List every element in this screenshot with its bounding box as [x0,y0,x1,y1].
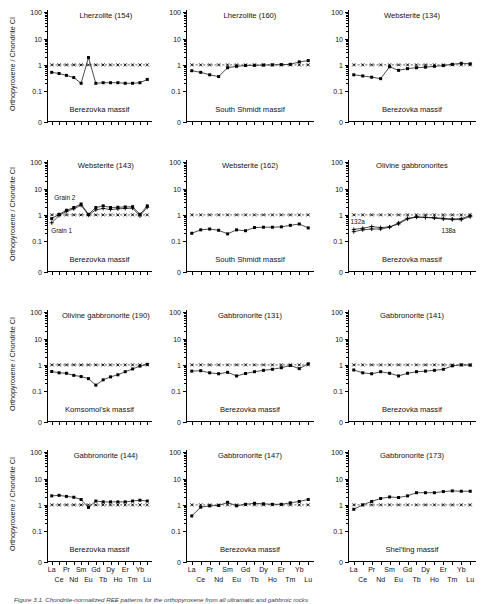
y-tick-label: 0 [38,269,42,276]
data-point [424,370,427,373]
chart-row: Orthopyroxene / Chondrite CI1001010.10Ol… [0,300,498,440]
x-tick [192,272,193,276]
data-point [199,71,202,74]
data-point [50,370,53,373]
y-tick-label: 10 [173,335,181,342]
x-tick [133,122,134,126]
y-axis-title-text: Orthopyroxene / Chondrite CI [8,17,17,111]
x-tick [272,562,273,566]
data-point [388,225,392,229]
y-tick-label: 1 [38,61,42,68]
x-tick [416,122,417,126]
data-point [50,71,53,74]
x-tick [219,562,220,566]
plot-area-p2: 1001010.10Lherzolite (160)South Shmidt m… [186,10,314,122]
data-point [58,72,61,75]
data-point [208,73,211,76]
y-tick [183,272,187,273]
series-annotation: Grain 1 [51,227,72,234]
data-point [406,494,409,497]
marker-layer-p10 [47,450,152,562]
x-tick [147,122,148,126]
x-tick [125,422,126,426]
x-tick-label-bottom: Ho [113,576,122,584]
data-point [370,227,374,231]
x-tick [443,122,444,126]
x-tick [125,122,126,126]
x-tick [263,562,264,566]
x-tick-label-top: Dy [259,566,268,574]
x-tick [470,562,471,566]
x-tick-label-bottom: Ho [430,576,439,584]
data-point [58,494,61,497]
x-tick [452,562,453,566]
x-tick [290,122,291,126]
data-point [397,374,400,377]
y-tick-label: 1 [339,61,343,68]
x-tick [363,562,364,566]
data-point [415,370,418,373]
data-point [298,500,301,503]
x-tick [381,122,382,126]
x-tick-label-top: Er [278,566,285,574]
marker-layer-p6 [348,160,476,272]
data-point [217,229,220,232]
data-point [370,500,373,503]
y-tick-label: 10 [335,335,343,342]
x-tick [59,272,60,276]
plot-area-p5: 1001010.10Websterite (162)South Shmidt m… [186,160,314,272]
y-tick-label: 10 [173,475,181,482]
y-tick-label: 100 [30,449,42,456]
reference-marker [146,503,149,506]
data-point [116,81,119,84]
x-tick-label-bottom: Ce [55,576,64,584]
x-tick [363,272,364,276]
x-tick [299,562,300,566]
x-tick [408,272,409,276]
x-tick [201,422,202,426]
x-tick [125,562,126,566]
y-tick-label: 0 [339,419,343,426]
plot-area-p6: 1001010.10Olivine gabbronoritesBerezovka… [348,160,476,272]
x-tick [299,422,300,426]
marker-layer-p12 [348,450,476,562]
x-tick [308,562,309,566]
x-tick [111,562,112,566]
x-tick [263,272,264,276]
data-point [94,384,97,387]
x-tick-label-top: Pr [63,566,70,574]
y-tick-label: 0 [38,119,42,126]
chart-panel-p4: Orthopyroxene / Chondrite CI1001010.10We… [2,150,160,300]
x-tick [408,422,409,426]
x-tick-label-bottom: Nd [214,576,223,584]
chart-panel-p9: 1001010.10Gabbronorite (141)Berezovka ma… [326,300,484,440]
x-tick [272,122,273,126]
y-tick-label: 0.1 [32,88,42,95]
y-tick-label: 100 [169,9,181,16]
data-point [109,81,112,84]
x-tick [290,562,291,566]
data-point [131,500,134,503]
y-tick [345,272,349,273]
series-annotation: 138a [441,227,455,234]
x-tick [66,562,67,566]
x-tick [461,562,462,566]
x-tick-label-top: Yb [136,566,145,574]
data-point [415,66,418,69]
plot-area-p10: 1001010.10Gabbronorite (144)Berezovka ma… [47,450,152,562]
x-tick-label-bottom: Tm [285,576,295,584]
x-tick [354,122,355,126]
data-point [307,498,310,501]
x-tick [59,562,60,566]
data-point [124,500,127,503]
y-tick-label: 0 [339,559,343,566]
x-tick [272,422,273,426]
x-tick [147,272,148,276]
x-tick [201,562,202,566]
x-tick [470,122,471,126]
plot-area-p1: 1001010.10Lherzolite (154)Berezovka mass… [47,10,152,122]
y-tick-label: 10 [34,335,42,342]
x-tick [219,272,220,276]
plot-area-p4: 1001010.10Websterite (143)Berezovka mass… [47,160,152,272]
data-point [146,78,149,81]
